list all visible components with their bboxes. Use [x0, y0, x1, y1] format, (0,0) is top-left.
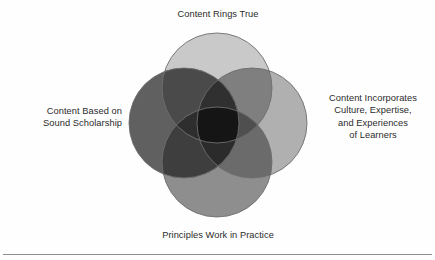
venn-label-left: Content Based on Sound Scholarship: [6, 105, 122, 130]
venn-label-bottom: Principles Work in Practice: [128, 229, 308, 241]
venn-label-right: Content Incorporates Culture, Expertise,…: [313, 92, 433, 142]
venn-label-top: Content Rings True: [128, 8, 308, 20]
figure-bottom-rule: [3, 254, 432, 255]
venn-figure: Content Rings True Content Incorporates …: [0, 0, 435, 260]
